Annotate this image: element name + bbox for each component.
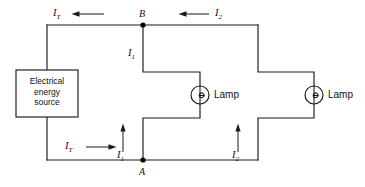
label-branch2-current-bottom-subscript: 2 — [236, 155, 240, 163]
wire-branch1-lower — [143, 104, 200, 160]
label-branch1-current-mid-subscript: 1 — [132, 53, 136, 61]
source-label-line-1: Electrical — [16, 76, 78, 87]
lamp-1-label: Lamp — [214, 90, 239, 100]
wire-branch2-upper — [258, 25, 314, 86]
node-label-A: A — [139, 167, 145, 177]
label-total-current-bottom-subscript: T — [69, 146, 73, 154]
lamp-2-symbol — [305, 86, 323, 104]
arrow-branch2-current-top — [179, 11, 210, 16]
source-label-line-2: energy — [16, 87, 78, 98]
label-total-current-bottom: IT — [65, 141, 72, 154]
node-dot-A — [140, 157, 145, 162]
node-dot-B — [140, 22, 145, 27]
wire-branch2-lower — [258, 104, 314, 160]
label-branch1-current-bottom: I1 — [117, 150, 124, 163]
label-branch2-current-top-subscript: 2 — [219, 13, 223, 21]
label-branch2-current-top: I2 — [215, 8, 222, 21]
wire-branch1-upper — [143, 25, 200, 86]
arrow-total-current-bottom — [86, 144, 117, 149]
label-branch1-current-mid: I1 — [128, 48, 135, 61]
label-branch1-current-bottom-subscript: 1 — [121, 155, 125, 163]
circuit-diagram-canvas: Electrical energy source IT I2 I1 IT I1 … — [0, 0, 365, 187]
label-branch2-current-bottom: I2 — [232, 150, 239, 163]
arrow-branch2-current-bottom — [235, 124, 240, 153]
label-total-current-top-subscript: T — [57, 13, 61, 21]
lamp-1-symbol — [191, 86, 209, 104]
node-label-B: B — [139, 9, 145, 19]
lamp-2-label: Lamp — [328, 90, 353, 100]
electrical-energy-source-label: Electrical energy source — [16, 76, 78, 108]
arrow-total-current-top — [72, 11, 105, 16]
arrow-branch1-current-bottom — [120, 124, 125, 153]
source-label-line-3: source — [16, 97, 78, 108]
label-total-current-top: IT — [53, 8, 60, 21]
